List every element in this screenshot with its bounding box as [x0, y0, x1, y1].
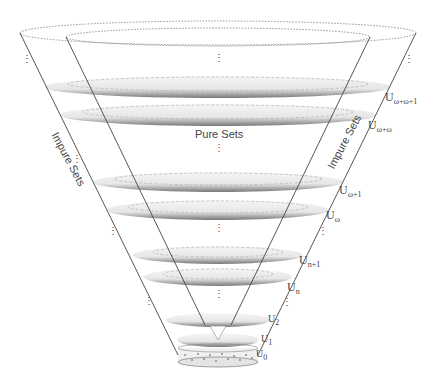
level-label-omega-1: Uω+1	[339, 183, 361, 199]
ellipsis-top: ⋮	[214, 52, 224, 63]
ellipsis-mid: ⋮	[214, 142, 224, 153]
top-inner-ellipse	[66, 28, 370, 46]
level-label-omega-omega: Uω+ω	[368, 118, 392, 134]
ellipsis-left-4: ⋮	[144, 295, 154, 306]
ellipsis-left-3: ⋮	[108, 225, 118, 236]
label-pure-sets: Pure Sets	[195, 128, 243, 140]
ellipsis-right-2: ⋮	[318, 225, 328, 236]
level-label-n-1: Un+1	[299, 253, 320, 269]
ellipsis-left-1: ⋮	[22, 53, 32, 64]
level-label-0: U0	[256, 348, 267, 362]
level-label-n: Un	[287, 280, 300, 296]
level-label-omega-omega-1: Uω+ω+1	[385, 90, 417, 106]
level-label-2: U2	[268, 313, 279, 327]
ellipsis-right-1: ⋮	[404, 53, 414, 64]
ellipsis-bottom: ⋮	[214, 288, 224, 299]
ellipsis-right-3: ⋮	[282, 296, 292, 307]
level-label-omega: Uω	[326, 208, 340, 224]
level-label-1: U1	[261, 333, 272, 347]
ellipsis-lower: ⋮	[214, 222, 224, 233]
